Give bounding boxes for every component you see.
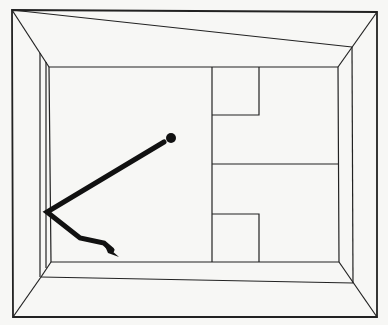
right-post [352, 47, 353, 283]
room-diagram [0, 0, 388, 325]
floor-edge [41, 277, 353, 283]
right-bottom-diagonal [339, 262, 377, 317]
upper-box [212, 67, 259, 115]
back-wall-partitions [212, 67, 339, 262]
lower-box [212, 214, 259, 262]
left-top-diagonal [12, 10, 49, 67]
ball-icon [166, 133, 176, 143]
left-bottom-diagonal [13, 277, 41, 317]
trajectory-path [47, 142, 164, 250]
trajectory [47, 133, 176, 257]
ceiling-edge [12, 10, 352, 47]
right-top-diagonal [338, 12, 377, 67]
